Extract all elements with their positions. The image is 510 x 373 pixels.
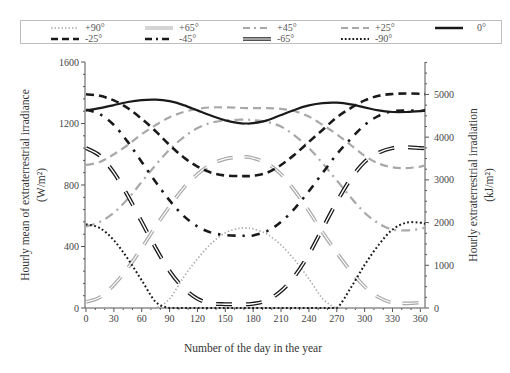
- y-axis-title-line1: Hourly mean of extraterrestrial irradian…: [19, 89, 32, 281]
- y2-axis-title: Hourly extraterrestrial irradiation (kJ/…: [467, 108, 496, 262]
- x-axis-title: Number of the day in the year: [184, 342, 322, 355]
- x-tick-label: 300: [357, 313, 372, 324]
- x-tick-label: 180: [246, 313, 261, 324]
- chart-series: [86, 94, 425, 309]
- y2-tick-label: 3000: [434, 174, 454, 185]
- y-tick-label: 0: [74, 303, 79, 314]
- x-tick-label: 210: [274, 313, 289, 324]
- y2-tick-label: 4000: [434, 132, 454, 143]
- y2-tick-label: 1000: [434, 260, 454, 271]
- y-axis-title: Hourly mean of extraterrestrial irradian…: [19, 89, 48, 281]
- y-tick-label: 1600: [59, 57, 79, 68]
- y-axis-title-line2: (W/m²): [35, 168, 48, 202]
- series-line: [86, 110, 425, 236]
- chart-axes: 0400800120016000100020003000400050000306…: [59, 57, 454, 325]
- x-tick-label: 0: [84, 313, 89, 324]
- x-tick-label: 30: [109, 313, 119, 324]
- x-tick-label: 60: [137, 313, 147, 324]
- series-line: [86, 94, 425, 177]
- y2-tick-label: 2000: [434, 217, 454, 228]
- x-tick-label: 360: [413, 313, 428, 324]
- y2-tick-label: 0: [434, 303, 439, 314]
- x-tick-label: 120: [190, 313, 205, 324]
- y2-axis-title-line2: (kJ/m²): [483, 168, 496, 202]
- series-line: [86, 228, 425, 308]
- chart-canvas: 0400800120016000100020003000400050000306…: [0, 0, 510, 373]
- x-tick-label: 240: [301, 313, 316, 324]
- x-tick-label: 270: [329, 313, 344, 324]
- x-tick-label: 150: [218, 313, 233, 324]
- x-tick-label: 90: [165, 313, 175, 324]
- y-tick-label: 400: [64, 241, 79, 252]
- x-tick-label: 330: [385, 313, 400, 324]
- series-line: [86, 147, 425, 304]
- y2-axis-title-line1: Hourly extraterrestrial irradiation: [467, 108, 480, 262]
- y-tick-label: 1200: [59, 118, 79, 129]
- y2-tick-label: 5000: [434, 89, 454, 100]
- y-tick-label: 800: [64, 180, 79, 191]
